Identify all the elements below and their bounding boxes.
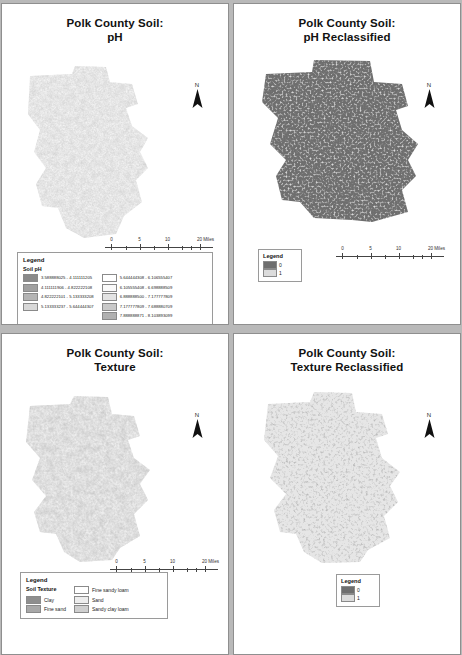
legend-item-label: 4.822222101 - 5.133333208: [41, 294, 94, 300]
legend-item[interactable]: 4.822222101 - 5.133333208: [23, 293, 94, 301]
legend-title: Legend: [23, 257, 207, 263]
north-arrow-icon: [192, 419, 203, 439]
legend-item[interactable]: 6.105555408 - 6.698888509: [102, 284, 173, 292]
panel-title-line1: Polk County Soil:: [299, 17, 396, 29]
legend-item[interactable]: 3.588888025 - 4.111111205: [23, 274, 94, 282]
map-panel-ph-reclassified[interactable]: Polk County Soil: pH Reclassified: [233, 3, 461, 325]
scalebar-labels: 0 5 10 20 Miles: [105, 237, 213, 244]
scalebar-tick-label: 5: [138, 237, 141, 242]
page-title-texture: Polk County Soil: Texture: [2, 334, 228, 374]
legend-item[interactable]: 0: [263, 261, 297, 269]
legend-item[interactable]: 5.644444308 - 6.106555407: [102, 274, 173, 282]
panel-title-line1: Polk County Soil:: [67, 17, 164, 29]
map-panel-texture-reclassified[interactable]: Polk County Soil: Texture Reclassified: [233, 333, 461, 655]
scalebar-tick-label: 0: [115, 559, 118, 564]
map-canvas-texture[interactable]: N 0 5 10 20 Miles: [2, 374, 228, 654]
legend-swatch: [74, 605, 89, 613]
panel-title-line1: Polk County Soil:: [299, 347, 396, 359]
panel-title-line2: Texture Reclassified: [234, 360, 460, 374]
legend-swatch: [102, 293, 117, 301]
north-arrow-ph: N: [188, 82, 206, 109]
scalebar-tick-label: 10: [170, 559, 175, 564]
north-arrow-icon: [424, 89, 435, 109]
scalebar-labels: 0 5 10 20 Miles: [336, 246, 444, 253]
legend-swatch: [23, 284, 38, 292]
scalebar-track: [336, 253, 444, 259]
legend-title: Legend: [341, 578, 375, 584]
legend-ph-reclassified[interactable]: Legend 0 1: [258, 249, 302, 282]
legend-item[interactable]: 6.888888500 - 7.177777809: [102, 293, 173, 301]
legend-swatch: [102, 284, 117, 292]
north-arrow-icon: [424, 419, 435, 439]
legend-item-label: 5.644444308 - 6.106555407: [120, 275, 173, 281]
scalebar-tick-label: 10: [396, 246, 401, 251]
legend-item-label: Fine sandy loam: [92, 587, 129, 593]
legend-item-label: Sandy clay loam: [92, 606, 129, 612]
panel-title-line2: Texture: [2, 360, 228, 374]
legend-item-label: 1: [357, 595, 360, 601]
north-arrow-texture: N: [188, 412, 206, 439]
legend-swatch: [341, 594, 355, 602]
legend-swatch: [23, 274, 38, 282]
legend-item[interactable]: Fine sandy loam: [74, 586, 129, 594]
legend-item[interactable]: 1: [263, 269, 297, 277]
legend-item[interactable]: Fine sand: [26, 605, 66, 613]
map-canvas-texture-reclassified[interactable]: N Legend 0 1: [234, 374, 460, 654]
map-canvas-ph[interactable]: N 0 5 10 20 Miles: [2, 44, 228, 324]
page-title-texture-reclassified: Polk County Soil: Texture Reclassified: [234, 334, 460, 374]
panel-title-line2: pH Reclassified: [234, 30, 460, 44]
raster-layer-ph-reclassified: [252, 52, 427, 227]
map-panel-texture[interactable]: Polk County Soil: Texture: [1, 333, 229, 655]
legend-swatch: [263, 261, 277, 269]
legend-item[interactable]: Sand: [74, 596, 129, 604]
legend-item[interactable]: Sandy clay loam: [74, 605, 129, 613]
scalebar-track: [105, 244, 213, 250]
legend-column-2: 5.644444308 - 6.106555407 6.105555408 - …: [102, 274, 173, 320]
scalebar-labels: 0 5 10 20 Miles: [110, 559, 218, 566]
north-arrow-icon: [192, 89, 203, 109]
legend-item[interactable]: 0: [341, 586, 375, 594]
north-label: N: [420, 82, 438, 88]
legend-item[interactable]: Clay: [26, 596, 66, 604]
map-canvas-ph-reclassified[interactable]: N 0 5 10 20 Miles: [234, 44, 460, 324]
scalebar-tick-label: 20 Miles: [197, 237, 214, 242]
legend-item[interactable]: 7.177777809 - 7.688880709: [102, 303, 173, 311]
scalebar-tick-label: 10: [165, 237, 170, 242]
legend-item-label: 7.177777809 - 7.688880709: [120, 304, 173, 310]
legend-column-1: 3.588888025 - 4.111111205 4.111111906 - …: [23, 274, 94, 320]
legend-title: Legend: [26, 577, 162, 583]
raster-layer-ph: [20, 56, 160, 241]
page-title-ph-reclassified: Polk County Soil: pH Reclassified: [234, 4, 460, 44]
legend-swatch: [341, 586, 355, 594]
legend-swatch: [102, 274, 117, 282]
map-sheet: Polk County Soil: pH: [0, 0, 462, 655]
legend-texture-reclassified[interactable]: Legend 0 1: [336, 574, 380, 607]
raster-layer-texture-reclassified: [256, 384, 416, 564]
legend-swatch: [263, 269, 277, 277]
legend-item[interactable]: 4.111111906 - 4.822222108: [23, 284, 94, 292]
legend-column-1: Soil Texture Clay Fine sand: [26, 586, 66, 613]
north-label: N: [188, 412, 206, 418]
legend-swatch: [74, 596, 89, 604]
legend-item-label: 0: [279, 262, 282, 268]
legend-item[interactable]: 5.133333237 - 5.644444307: [23, 303, 94, 311]
legend-item-label: 6.105555408 - 6.698888509: [120, 285, 173, 291]
legend-swatch: [26, 596, 41, 604]
scalebar-tick-label: 0: [110, 237, 113, 242]
north-arrow-ph-reclassified: N: [420, 82, 438, 109]
legend-texture[interactable]: Legend Soil Texture Clay Fine sand: [20, 572, 168, 619]
scalebar-ph-reclassified: 0 5 10 20 Miles: [336, 246, 444, 259]
legend-swatch: [26, 605, 41, 613]
legend-title: Legend: [263, 253, 297, 259]
legend-item-label: 6.888888500 - 7.177777809: [120, 294, 173, 300]
legend-item[interactable]: 7.888888871 - 8.103893099: [102, 312, 173, 320]
map-panel-ph[interactable]: Polk County Soil: pH: [1, 3, 229, 325]
legend-swatch: [74, 586, 89, 594]
legend-item-label: 4.111111906 - 4.822222108: [41, 285, 92, 291]
legend-item-label: 5.133333237 - 5.644444307: [41, 304, 94, 310]
legend-ph[interactable]: Legend Soil pH 3.588888025 - 4.111111205…: [17, 252, 213, 325]
legend-item[interactable]: 1: [341, 594, 375, 602]
legend-subtitle: Soil pH: [23, 266, 207, 272]
legend-item-label: 7.888888871 - 8.103893099: [120, 313, 173, 319]
panel-title-line1: Polk County Soil:: [67, 347, 164, 359]
